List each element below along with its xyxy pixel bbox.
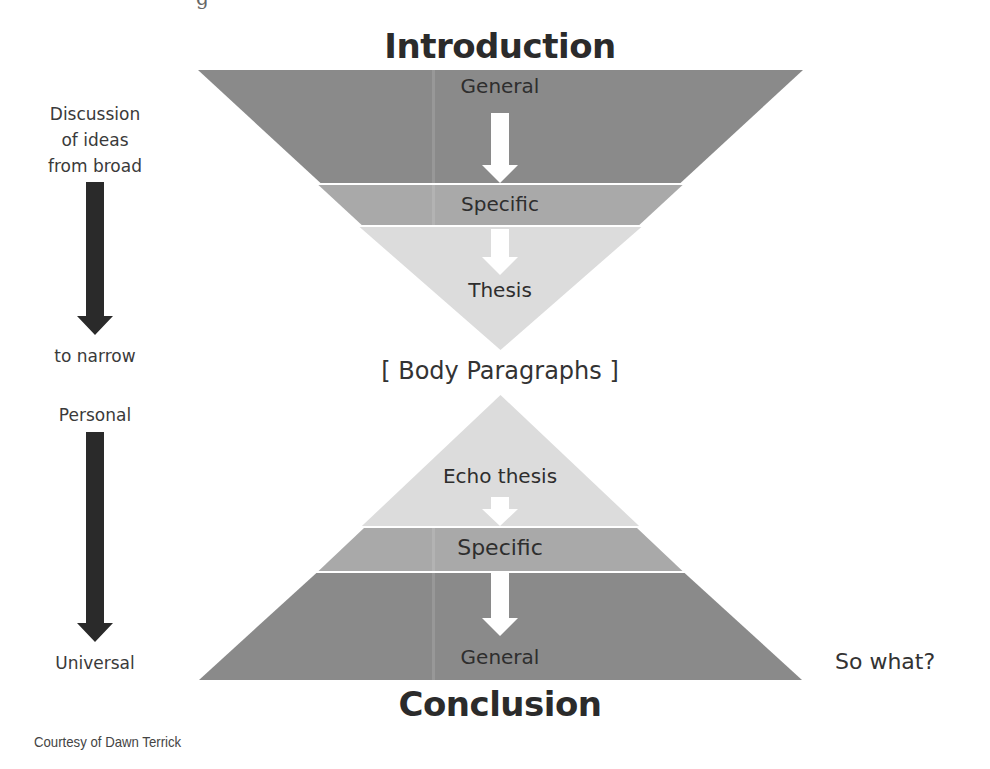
universal-label: Universal — [5, 650, 185, 676]
discussion-label: Discussion of ideas from broad — [5, 101, 185, 179]
discussion-line-2: of ideas — [5, 127, 185, 153]
introduction-title: Introduction — [300, 26, 700, 66]
so-what-label: So what? — [835, 649, 935, 674]
discussion-line-3: from broad — [5, 153, 185, 179]
personal-to-universal-arrow-icon — [77, 432, 113, 642]
conclusion-specific-label: Specific — [400, 535, 600, 560]
intro-general-label: General — [400, 74, 600, 98]
conclusion-echo-thesis-label: Echo thesis — [400, 464, 600, 488]
conclusion-title: Conclusion — [300, 684, 700, 724]
to-narrow-label: to narrow — [5, 343, 185, 369]
body-paragraphs-label: [ Body Paragraphs ] — [300, 357, 700, 385]
discussion-line-1: Discussion — [5, 101, 185, 127]
credit-caption: Courtesy of Dawn Terrick — [34, 733, 181, 750]
intro-specific-label: Specific — [400, 192, 600, 216]
personal-label: Personal — [5, 402, 185, 428]
intro-thesis-label: Thesis — [400, 278, 600, 302]
broad-to-narrow-arrow-icon — [77, 182, 113, 335]
conclusion-general-label: General — [400, 645, 600, 669]
cropped-heading-fragment: g — [196, 0, 209, 10]
